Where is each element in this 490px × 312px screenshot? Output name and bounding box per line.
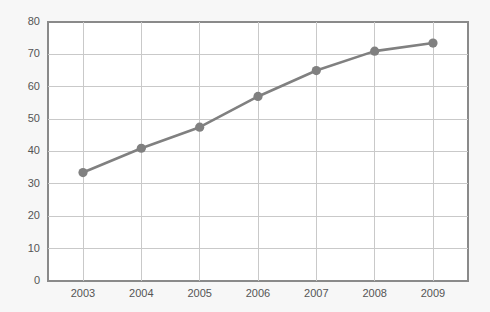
x-tick-label: 2008 [362,287,386,299]
data-point [78,168,87,177]
x-tick-label: 2007 [304,287,328,299]
x-tick-label: 2006 [246,287,270,299]
data-point [195,123,204,132]
y-tick-label: 70 [28,47,40,59]
x-tick-label: 2009 [421,287,445,299]
chart-canvas: 01020304050607080 2003200420052006200720… [0,0,490,312]
data-point [137,144,146,153]
y-tick-label: 50 [28,112,40,124]
data-point [428,38,437,47]
data-point [253,92,262,101]
x-tick-label: 2005 [187,287,211,299]
y-tick-label: 0 [34,274,40,286]
y-tick-label: 40 [28,144,40,156]
x-tick-label: 2003 [71,287,95,299]
y-axis-tick-labels: 01020304050607080 [28,15,40,286]
x-tick-label: 2004 [129,287,153,299]
line-chart: 01020304050607080 2003200420052006200720… [0,0,490,312]
data-point [370,47,379,56]
y-tick-label: 10 [28,242,40,254]
y-tick-label: 30 [28,177,40,189]
y-tick-label: 60 [28,80,40,92]
data-point [312,66,321,75]
y-tick-label: 20 [28,209,40,221]
y-tick-label: 80 [28,15,40,27]
